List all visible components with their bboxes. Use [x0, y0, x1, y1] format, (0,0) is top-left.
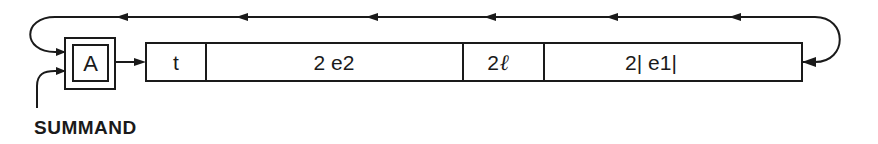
svg-text:ℓ: ℓ [500, 50, 509, 75]
arrowhead-icon [802, 57, 816, 67]
feedback-loop [30, 13, 840, 67]
arrowhead-icon [484, 13, 496, 21]
shift-register-diagram: A t 2 e2 2 ℓ 2| e1| S [0, 0, 878, 144]
shift-register: t 2 e2 2 ℓ 2| e1| [146, 43, 802, 81]
register-cell-2e2: 2 e2 [314, 51, 355, 74]
arrowhead-icon [134, 58, 146, 66]
register-cell-2e1: 2| e1| [625, 51, 677, 74]
arrowhead-icon [236, 13, 248, 21]
summand-label: SUMMAND [34, 117, 137, 138]
register-outline [146, 43, 802, 81]
accumulator-to-register-arrow [115, 58, 146, 66]
accumulator-label: A [83, 51, 98, 76]
summand-input: SUMMAND [34, 67, 137, 138]
arrowhead-icon [729, 13, 741, 21]
accumulator-block: A [65, 38, 115, 89]
arrowhead-icon [116, 13, 128, 21]
register-cell-2l: 2 ℓ [487, 50, 509, 75]
arrowhead-icon [606, 13, 618, 21]
summand-path [37, 71, 65, 108]
arrowhead-icon [366, 13, 378, 21]
svg-text:2: 2 [487, 51, 499, 74]
feedback-path [30, 17, 840, 62]
register-cell-t: t [173, 51, 179, 74]
